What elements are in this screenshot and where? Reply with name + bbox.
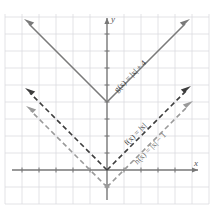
x-axis-label: x [193,158,198,168]
graph-figure: x y g(x) = |x| + 4 f(x) = |x| h(x) = |x|… [0,0,216,218]
y-axis-label: y [110,14,115,24]
coordinate-plane-svg: x y g(x) = |x| + 4 f(x) = |x| h(x) = |x|… [0,0,216,218]
